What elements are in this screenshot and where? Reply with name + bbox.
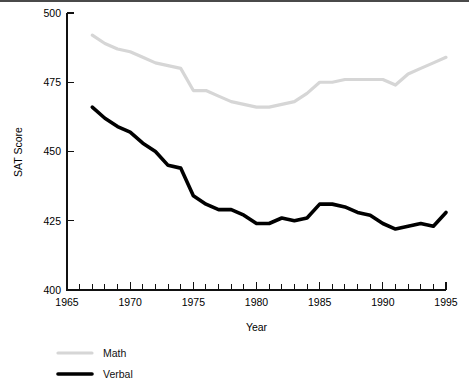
x-tick-label: 1980 (245, 296, 269, 308)
y-tick-label: 400 (43, 284, 61, 296)
chart-legend: MathVerbal (58, 347, 133, 380)
y-tick-label: 500 (43, 7, 61, 19)
sat-score-line-chart: 400425450475500 196519701975198019851990… (0, 0, 469, 387)
x-tick-label: 1965 (55, 296, 79, 308)
x-tick-label: 1985 (308, 296, 332, 308)
series-line-verbal (92, 107, 446, 229)
x-axis-tick-labels: 1965197019751980198519901995 (55, 296, 458, 308)
x-tick-label: 1970 (118, 296, 142, 308)
y-axis-title: SAT Score (12, 127, 24, 177)
series-line-math (92, 35, 446, 107)
y-tick-label: 475 (43, 76, 61, 88)
y-axis-tick-labels: 400425450475500 (43, 7, 61, 296)
x-tick-label: 1995 (434, 296, 458, 308)
x-tick-label: 1975 (182, 296, 206, 308)
axis-lines (67, 13, 446, 290)
legend-label-math: Math (103, 347, 127, 359)
y-tick-label: 425 (43, 215, 61, 227)
y-tick-label: 450 (43, 145, 61, 157)
y-axis-ticks (67, 13, 74, 290)
chart-canvas: 400425450475500 196519701975198019851990… (0, 0, 469, 387)
x-axis-title: Year (246, 321, 268, 333)
x-axis-ticks (67, 282, 446, 290)
legend-label-verbal: Verbal (103, 368, 133, 380)
data-series-group (92, 35, 446, 229)
x-tick-label: 1990 (371, 296, 395, 308)
